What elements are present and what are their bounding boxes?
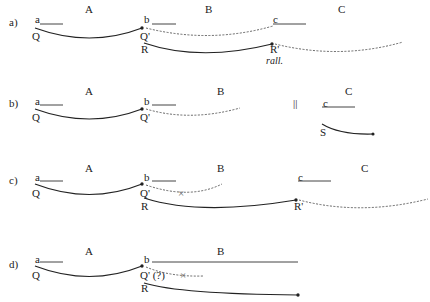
- node-R: R: [141, 283, 148, 294]
- node-R-prime: R': [270, 44, 279, 55]
- node-S: S: [320, 127, 326, 138]
- panel-label-d: d): [9, 259, 18, 270]
- node-Q-prime: Q': [140, 188, 150, 199]
- section-label-c-A: A: [85, 163, 93, 174]
- point-a: a: [35, 172, 40, 183]
- point-b: b: [144, 96, 150, 107]
- section-label-b-C: C: [345, 86, 352, 97]
- node-Q: Q: [32, 31, 40, 42]
- panel-label-c: c): [9, 175, 18, 186]
- node-R: R: [141, 201, 148, 212]
- section-label-b-A: A: [85, 86, 93, 97]
- node-Q: Q: [32, 188, 40, 199]
- section-label-d-B: B: [217, 246, 224, 257]
- node-R: R: [141, 44, 148, 55]
- section-label-b-B: B: [217, 86, 224, 97]
- point-b: b: [144, 172, 150, 183]
- panel-a: [35, 24, 403, 53]
- section-label-c-C: C: [361, 163, 368, 174]
- panel-c: [35, 181, 428, 208]
- node-Q-prime-uncertain: Q' (?): [140, 270, 165, 281]
- blocked-x-mark: ×: [180, 270, 186, 281]
- section-label-c-B: B: [217, 163, 224, 174]
- point-c: c: [323, 98, 328, 109]
- node-Q: Q: [32, 270, 40, 281]
- panel-label-a: a): [9, 17, 18, 28]
- point-a: a: [35, 14, 40, 25]
- point-a: a: [35, 254, 40, 265]
- panel-d: [35, 262, 298, 295]
- annotation-rall: rall.: [266, 56, 283, 66]
- separator-double-bar: ||: [293, 98, 297, 109]
- point-c: c: [273, 14, 278, 25]
- panel-label-b: b): [9, 98, 18, 109]
- section-label-a-C: C: [338, 4, 345, 15]
- node-R-prime: R': [294, 201, 303, 212]
- point-a: a: [35, 96, 40, 107]
- point-b: b: [144, 254, 150, 265]
- section-label-d-A: A: [85, 246, 93, 257]
- diagram-canvas: [0, 0, 430, 302]
- node-Q: Q: [32, 112, 40, 123]
- section-label-a-B: B: [205, 4, 212, 15]
- blocked-x-mark: ×: [178, 188, 184, 199]
- section-label-a-A: A: [85, 4, 93, 15]
- node-Q-prime: Q': [140, 112, 150, 123]
- point-c: c: [298, 172, 303, 183]
- node-Q-prime: Q': [140, 31, 150, 42]
- point-b: b: [144, 14, 150, 25]
